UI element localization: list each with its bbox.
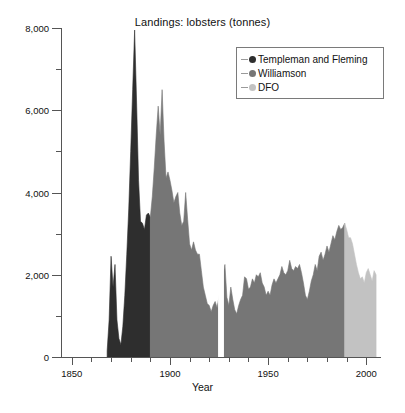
y-axis-tick-label: 2,000 bbox=[25, 269, 49, 280]
x-axis-minor-tick bbox=[248, 357, 249, 362]
lobster-landings-chart: Landings: lobsters (tonnes) 02,0004,0006… bbox=[0, 0, 405, 413]
x-axis-title: Year bbox=[0, 381, 405, 393]
x-axis-tick bbox=[170, 357, 171, 365]
x-axis-tick bbox=[268, 357, 269, 365]
circle-marker-icon bbox=[249, 56, 256, 63]
x-axis-line bbox=[61, 357, 381, 358]
y-axis-tick-label: 4,000 bbox=[25, 187, 49, 198]
x-axis-minor-tick bbox=[307, 357, 308, 362]
x-axis-minor-tick bbox=[190, 357, 191, 362]
x-axis-tick bbox=[72, 357, 73, 365]
x-axis-minor-tick bbox=[150, 357, 151, 362]
area-series bbox=[107, 30, 150, 357]
legend-item-dfo[interactable]: DFO bbox=[241, 80, 378, 94]
legend-item-williamson[interactable]: Williamson bbox=[241, 66, 378, 80]
legend-item-label: Templeman and Fleming bbox=[258, 54, 368, 65]
chart-legend: Templeman and Fleming Williamson DFO bbox=[236, 47, 384, 99]
x-axis-minor-tick bbox=[288, 357, 289, 362]
circle-marker-icon bbox=[249, 84, 256, 91]
legend-line-icon bbox=[241, 87, 248, 88]
legend-item-templeman-and-fleming[interactable]: Templeman and Fleming bbox=[241, 52, 378, 66]
x-axis-minor-tick bbox=[209, 357, 210, 362]
y-axis-tick bbox=[52, 357, 62, 358]
area-series bbox=[345, 223, 376, 357]
y-axis-tick bbox=[52, 28, 62, 29]
y-axis-tick-label: 8,000 bbox=[25, 23, 49, 34]
data-gap-mask bbox=[218, 28, 224, 357]
y-axis-tick bbox=[52, 110, 62, 111]
y-axis-minor-tick bbox=[56, 316, 62, 317]
circle-marker-icon bbox=[249, 70, 256, 77]
area-series bbox=[150, 90, 344, 357]
y-axis-tick-label: 0 bbox=[44, 352, 49, 363]
x-axis-minor-tick bbox=[229, 357, 230, 362]
legend-item-label: DFO bbox=[258, 82, 279, 93]
y-axis-tick-label: 6,000 bbox=[25, 105, 49, 116]
x-axis-minor-tick bbox=[91, 357, 92, 362]
x-axis-minor-tick bbox=[111, 357, 112, 362]
x-axis-tick-label: 2000 bbox=[356, 368, 377, 379]
x-axis-minor-tick bbox=[131, 357, 132, 362]
x-axis-minor-tick bbox=[347, 357, 348, 362]
y-axis-tick bbox=[52, 275, 62, 276]
x-axis-tick-label: 1900 bbox=[159, 368, 180, 379]
x-axis-minor-tick bbox=[327, 357, 328, 362]
y-axis-tick bbox=[52, 193, 62, 194]
y-axis-minor-tick bbox=[56, 234, 62, 235]
legend-item-label: Williamson bbox=[258, 68, 306, 79]
y-axis-minor-tick bbox=[56, 151, 62, 152]
chart-title: Landings: lobsters (tonnes) bbox=[0, 16, 405, 28]
x-axis-tick bbox=[366, 357, 367, 365]
legend-line-icon bbox=[241, 59, 248, 60]
x-axis-tick-label: 1950 bbox=[258, 368, 279, 379]
legend-line-icon bbox=[241, 73, 248, 74]
x-axis-tick-label: 1850 bbox=[61, 368, 82, 379]
y-axis-minor-tick bbox=[56, 69, 62, 70]
